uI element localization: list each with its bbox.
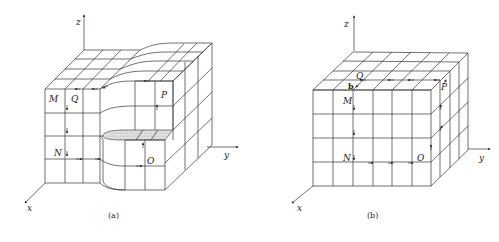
path-arrows-b xyxy=(354,80,446,163)
diagram-canvas: z y x M Q P N O (a) xyxy=(0,0,499,242)
figure-b: z y x Q b M P N O (b) xyxy=(292,16,490,220)
caption-a: (a) xyxy=(108,211,119,220)
x-axis-label-a: x xyxy=(27,203,32,213)
y-axis-label-a: y xyxy=(223,150,230,160)
figure-a: z y x M Q P N O (a) xyxy=(25,15,238,220)
point-M-b: M xyxy=(342,96,353,106)
z-axis-label-a: z xyxy=(75,17,81,27)
point-M-a: M xyxy=(48,94,59,104)
lower-right-block-a xyxy=(125,140,165,190)
point-Q-a: Q xyxy=(71,94,79,104)
x-axis-label-b: x xyxy=(297,203,302,213)
right-face-a xyxy=(165,43,212,190)
point-N-a: N xyxy=(53,148,63,158)
top-face-a xyxy=(45,50,140,89)
caption-b: (b) xyxy=(367,211,378,220)
point-N-b: N xyxy=(342,153,352,163)
right-face-b xyxy=(431,53,468,186)
point-b-b: b xyxy=(348,81,354,91)
z-axis-label-b: z xyxy=(343,19,349,29)
point-Q-b: Q xyxy=(356,71,364,81)
path-arrows-a xyxy=(67,81,157,166)
point-P-b: P xyxy=(440,82,448,92)
point-P-a: P xyxy=(160,90,168,100)
upper-right-block-a xyxy=(100,81,173,130)
x-axis xyxy=(292,186,313,203)
point-O-a: O xyxy=(147,156,155,166)
front-face-b xyxy=(313,90,431,186)
y-axis-label-b: y xyxy=(478,153,485,163)
x-axis xyxy=(25,183,45,203)
shaded-cut-surface-a xyxy=(103,130,173,140)
point-O-b: O xyxy=(417,153,425,163)
